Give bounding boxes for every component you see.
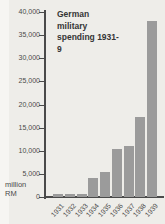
unit-line-rm: RM <box>5 189 17 198</box>
y-axis-line <box>44 10 46 199</box>
y-tick-mark <box>39 35 44 36</box>
y-tick-label: 40,000 <box>0 8 40 16</box>
bar-1935 <box>100 172 110 197</box>
chart-title: German military spending 1931-9 <box>57 9 119 55</box>
y-tick-mark <box>39 81 44 82</box>
y-axis-unit-label: million RM <box>5 181 41 198</box>
y-tick-label: 5,000 <box>0 170 40 178</box>
y-tick-label: 35,000 <box>0 31 40 39</box>
y-tick-label: 15,000 <box>0 124 40 132</box>
y-tick-mark <box>39 105 44 106</box>
y-tick-mark <box>39 12 44 13</box>
chart-figure: German military spending 1931-9 40,00035… <box>0 0 165 224</box>
bar-1931 <box>53 194 63 197</box>
bar-1938 <box>135 117 145 197</box>
bar-1932 <box>65 194 75 197</box>
y-tick-label: 30,000 <box>0 54 40 62</box>
y-tick-mark <box>39 58 44 59</box>
bar-1939 <box>147 21 157 197</box>
bar-1936 <box>112 149 122 197</box>
bar-1937 <box>124 146 134 197</box>
y-tick-mark <box>39 174 44 175</box>
y-tick-mark <box>39 151 44 152</box>
bar-1934 <box>88 178 98 197</box>
y-tick-mark <box>39 128 44 129</box>
y-tick-label: 20,000 <box>0 101 40 109</box>
y-tick-label: 25,000 <box>0 77 40 85</box>
y-tick-label: 10,000 <box>0 147 40 155</box>
bar-1933 <box>77 194 87 197</box>
